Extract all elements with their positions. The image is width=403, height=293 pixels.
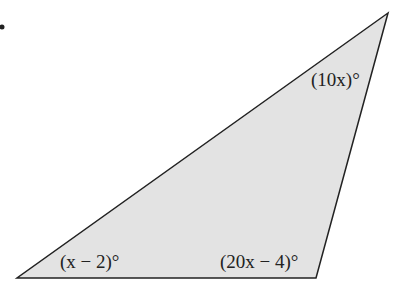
triangle — [17, 13, 388, 278]
angle-label-bottom-right: (20x − 4)° — [220, 252, 298, 271]
angle-label-bottom-left: (x − 2)° — [60, 252, 119, 271]
bullet-dot — [0, 25, 5, 30]
angle-label-top: (10x)° — [311, 70, 360, 89]
triangle-diagram — [0, 0, 403, 293]
